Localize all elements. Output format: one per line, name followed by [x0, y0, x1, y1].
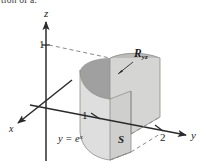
- x-axis-label: x: [9, 124, 13, 134]
- z-axis-label: z: [44, 8, 48, 19]
- figure-container: tion of a.: [0, 0, 201, 164]
- y-tick-one-label: 1: [82, 110, 88, 121]
- curve-equation-label: y = ex: [58, 134, 83, 145]
- curve-equation-exponent: x: [80, 133, 83, 140]
- curve-equation-lhs: y =: [58, 133, 72, 144]
- z-tick-one-label: 1: [39, 39, 45, 50]
- region-ryz-label: Ryz: [134, 48, 148, 61]
- y-axis-label: y: [191, 130, 196, 141]
- region-subscript: yz: [142, 53, 148, 61]
- x-axis: [18, 80, 72, 123]
- solid-s-label: S: [118, 134, 124, 145]
- region-base-letter: R: [134, 47, 142, 59]
- y-tick-two-label: 2: [160, 132, 166, 143]
- solid-right-face: [110, 91, 131, 160]
- figure-graphic: [0, 0, 201, 164]
